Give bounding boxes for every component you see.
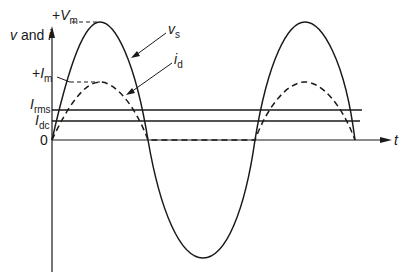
vs-pointer-arrow-icon [131, 51, 140, 58]
y-axis-label: v and i [10, 28, 51, 42]
waveform-diagram [0, 0, 404, 277]
idc-label: Idc [35, 113, 49, 127]
y-axis-var1: v [10, 27, 17, 43]
vs-label: vs [168, 22, 180, 36]
y-axis-conj: and [17, 27, 48, 43]
id-pointer [131, 63, 172, 92]
id-curve [52, 82, 355, 140]
vs-pointer [136, 33, 166, 55]
y-axis-var2: i [48, 27, 51, 43]
id-pointer-arrow-icon [126, 88, 135, 95]
x-axis-arrow-icon [380, 137, 392, 143]
x-axis-label: t [394, 133, 398, 147]
id-label: id [174, 52, 183, 66]
irms-label: Irms [30, 97, 51, 111]
vm-label: +Vm [52, 8, 78, 22]
origin-label: 0 [40, 133, 48, 147]
im-label: +Im [32, 66, 52, 80]
